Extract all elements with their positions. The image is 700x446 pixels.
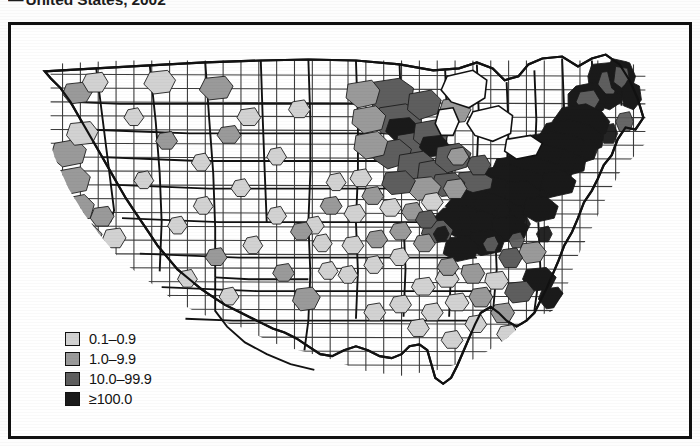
- legend-label: 10.0–99.9: [89, 371, 152, 387]
- map-legend: 0.1–0.9 1.0–9.9 10.0–99.9 ≥100.0: [65, 329, 215, 409]
- legend-swatch-icon: [65, 392, 80, 406]
- legend-swatch-icon: [65, 372, 80, 386]
- legend-row: ≥100.0: [65, 389, 215, 409]
- legend-label: 0.1–0.9: [89, 331, 136, 347]
- legend-label: 1.0–9.9: [89, 351, 136, 367]
- scanned-page-background: —United States, 2002 .c0 { fill:#ffffff;…: [0, 0, 700, 446]
- legend-row: 10.0–99.9: [65, 369, 215, 389]
- legend-swatch-icon: [65, 352, 80, 366]
- legend-row: 1.0–9.9: [65, 349, 215, 369]
- map-frame: .c0 { fill:#ffffff; } .c1 { fill:#d2d2d2…: [8, 22, 692, 439]
- legend-label: ≥100.0: [89, 391, 132, 407]
- title-text: United States, 2002: [25, 0, 165, 8]
- legend-swatch-icon: [65, 332, 80, 346]
- figure-title: —United States, 2002: [8, 0, 166, 13]
- legend-row: 0.1–0.9: [65, 329, 215, 349]
- title-dash: —: [8, 0, 23, 9]
